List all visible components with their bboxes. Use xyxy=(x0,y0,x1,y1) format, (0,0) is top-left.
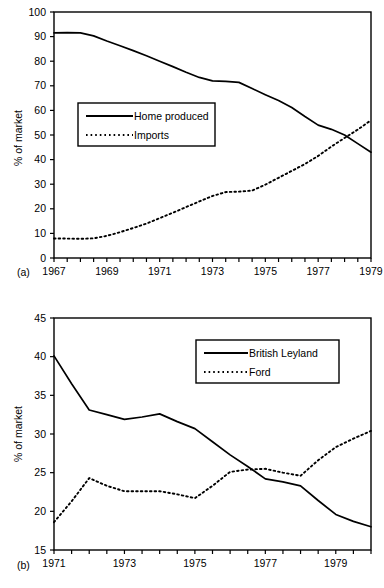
x-axis-tick-label: 1973 xyxy=(201,265,225,277)
x-axis-tick-label: 1979 xyxy=(324,557,348,569)
chart-a-legend-label-dotted: Imports xyxy=(134,129,169,141)
x-axis-tick-label: 1971 xyxy=(148,265,172,277)
chart-b-legend: British Leyland Ford xyxy=(196,340,339,383)
chart-b-legend-label-dotted: Ford xyxy=(249,366,271,378)
y-axis-tick-label: 25 xyxy=(34,466,46,478)
x-axis-tick-label: 1975 xyxy=(254,265,278,277)
chart-a-panel-label: (a) xyxy=(17,266,30,278)
y-axis-tick-label: 80 xyxy=(34,55,46,67)
x-axis-tick-label: 1977 xyxy=(254,557,278,569)
y-axis-tick-label: 100 xyxy=(28,6,46,18)
y-axis-tick-label: 45 xyxy=(34,312,46,324)
chart-b-xtick-group: 19711973197519771979 xyxy=(42,550,371,569)
y-axis-tick-label: 70 xyxy=(34,79,46,91)
y-axis-tick-label: 15 xyxy=(34,544,46,556)
y-axis-tick-label: 20 xyxy=(34,202,46,214)
x-axis-tick-label: 1977 xyxy=(306,265,330,277)
chart-b-ytick-group: 15202530354045 xyxy=(34,312,54,556)
y-axis-tick-label: 30 xyxy=(34,178,46,190)
x-axis-tick-label: 1967 xyxy=(42,265,66,277)
chart-b-panel-label: (b) xyxy=(17,559,30,571)
chart-a-ytick-group: 0102030405060708090100 xyxy=(28,6,54,264)
x-axis-tick-label: 1975 xyxy=(183,557,207,569)
y-axis-tick-label: 10 xyxy=(34,227,46,239)
y-axis-tick-label: 35 xyxy=(34,389,46,401)
chart-b-series-ford xyxy=(54,431,371,522)
x-axis-tick-label: 1973 xyxy=(113,557,137,569)
chart-a-xtick-group: 1967196919711973197519771979 xyxy=(42,258,383,277)
chart-b-legend-label-solid: British Leyland xyxy=(249,347,318,359)
y-axis-tick-label: 40 xyxy=(34,350,46,362)
y-axis-tick-label: 30 xyxy=(34,428,46,440)
y-axis-tick-label: 20 xyxy=(34,505,46,517)
y-axis-tick-label: 50 xyxy=(34,129,46,141)
chart-b-ylabel: % of market xyxy=(12,406,24,462)
chart-panel-b: % of market 15202530354045 1971197319751… xyxy=(0,294,384,588)
chart-panel-a: % of market 0102030405060708090100 19671… xyxy=(0,0,384,294)
chart-b-svg: % of market 15202530354045 1971197319751… xyxy=(0,294,384,588)
x-axis-tick-label: 1969 xyxy=(95,265,119,277)
chart-a-legend: Home produced Imports xyxy=(78,103,215,146)
chart-b-yaxis-label-group: % of market xyxy=(12,406,24,462)
x-axis-tick-label: 1979 xyxy=(359,265,383,277)
x-axis-tick-label: 1971 xyxy=(42,557,66,569)
y-axis-tick-label: 40 xyxy=(34,153,46,165)
chart-a-legend-label-solid: Home produced xyxy=(134,110,209,122)
y-axis-tick-label: 60 xyxy=(34,104,46,116)
chart-a-yaxis-label-group: % of market xyxy=(12,110,24,166)
y-axis-tick-label: 90 xyxy=(34,30,46,42)
y-axis-tick-label: 0 xyxy=(40,252,46,264)
chart-a-svg: % of market 0102030405060708090100 19671… xyxy=(0,0,384,294)
chart-a-ylabel: % of market xyxy=(12,110,24,166)
